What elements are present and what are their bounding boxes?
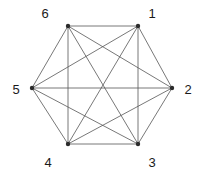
graph-vertex-2[interactable] bbox=[170, 86, 174, 90]
graph-edge bbox=[138, 88, 172, 144]
graph-edge bbox=[138, 26, 172, 88]
vertex-layer bbox=[30, 24, 174, 146]
graph-edge bbox=[68, 88, 172, 144]
graph-vertex-3[interactable] bbox=[136, 142, 140, 146]
graph-figure: 123456 bbox=[0, 0, 203, 176]
vertex-label-1: 1 bbox=[148, 7, 155, 20]
vertex-label-5: 5 bbox=[12, 83, 19, 96]
graph-edge bbox=[32, 26, 68, 88]
graph-canvas bbox=[0, 0, 203, 176]
graph-vertex-1[interactable] bbox=[136, 24, 140, 28]
vertex-label-6: 6 bbox=[41, 7, 48, 20]
edge-layer bbox=[32, 26, 172, 144]
graph-edge bbox=[32, 88, 68, 144]
graph-edge bbox=[32, 26, 138, 88]
vertex-label-3: 3 bbox=[148, 156, 155, 169]
vertex-label-2: 2 bbox=[184, 83, 191, 96]
graph-vertex-6[interactable] bbox=[66, 24, 70, 28]
vertex-label-4: 4 bbox=[44, 156, 51, 169]
graph-vertex-5[interactable] bbox=[30, 86, 34, 90]
graph-vertex-4[interactable] bbox=[66, 142, 70, 146]
